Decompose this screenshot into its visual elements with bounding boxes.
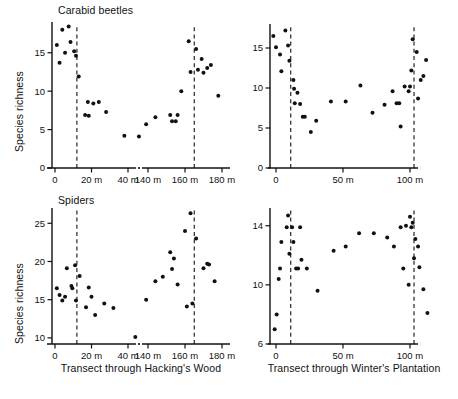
data-point — [122, 134, 126, 138]
data-point — [292, 87, 296, 91]
y-tick-label: 10 — [34, 86, 45, 97]
data-point — [77, 75, 81, 79]
data-point — [60, 28, 64, 32]
data-point — [287, 252, 291, 256]
data-point — [202, 266, 206, 270]
data-point — [274, 45, 278, 49]
data-point — [417, 265, 421, 269]
y-tick-label: 10 — [34, 332, 45, 343]
data-point — [216, 94, 220, 98]
data-point — [74, 298, 78, 302]
data-point — [209, 63, 213, 67]
y-tick-label: 25 — [34, 218, 45, 229]
data-point — [392, 244, 396, 248]
data-point — [309, 130, 313, 134]
data-point — [404, 224, 408, 228]
data-point — [298, 225, 302, 229]
x-tick-label: 0 — [273, 350, 278, 361]
data-point — [153, 279, 157, 283]
data-point — [329, 100, 333, 104]
data-point — [183, 229, 187, 233]
panel-carabid-winters-plantation: 051015050 m100 m — [240, 0, 458, 185]
data-point — [144, 298, 148, 302]
data-point — [279, 69, 283, 73]
x-tick-label: 50 m — [332, 350, 353, 361]
data-point — [278, 267, 282, 271]
data-point — [399, 124, 403, 128]
x-tick-label: 140 m — [135, 350, 161, 361]
data-point — [133, 335, 137, 339]
panel-carabid-hackings-wood: Carabid beetles Species richness 0510150… — [0, 0, 238, 185]
y-tick-label: 15 — [34, 294, 45, 305]
data-point — [168, 113, 172, 117]
data-point — [273, 327, 277, 331]
plot-area-spiders-winters: 61014050 m100 m — [240, 192, 458, 370]
data-point — [170, 119, 174, 123]
x-tick-label: 100 m — [397, 174, 423, 185]
data-point — [194, 237, 198, 241]
data-point — [419, 78, 423, 82]
data-point — [286, 44, 290, 48]
data-point — [316, 289, 320, 293]
data-point — [357, 231, 361, 235]
x-tick-label: 100 m — [397, 350, 423, 361]
x-tick-label: 140 m — [135, 174, 161, 185]
data-point — [411, 37, 415, 41]
panel-spiders-winters-plantation: 61014050 m100 m Transect through Winter'… — [240, 192, 458, 370]
data-point — [305, 267, 309, 271]
data-point — [102, 302, 106, 306]
data-point — [55, 286, 59, 290]
data-point — [55, 43, 59, 47]
data-point — [299, 258, 303, 262]
data-point — [83, 113, 87, 117]
data-point — [415, 50, 419, 54]
data-point — [344, 244, 348, 248]
y-tick-label: 6 — [258, 338, 263, 349]
data-point — [358, 84, 362, 88]
data-point — [303, 115, 307, 119]
data-point — [279, 240, 283, 244]
x-tick-label: 0 — [52, 174, 57, 185]
data-point — [91, 101, 95, 105]
data-point — [174, 119, 178, 123]
data-point — [287, 59, 291, 63]
x-tick-label: 160 m — [172, 174, 198, 185]
data-point — [200, 57, 204, 61]
data-point — [189, 211, 193, 215]
data-point — [207, 263, 211, 267]
x-tick-label: 50 m — [332, 174, 353, 185]
data-point — [416, 244, 420, 248]
data-point — [344, 100, 348, 104]
data-point — [78, 274, 82, 278]
data-point — [271, 34, 275, 38]
data-point — [408, 84, 412, 88]
data-point — [58, 293, 62, 297]
data-point — [172, 256, 176, 260]
data-point — [411, 221, 415, 225]
data-point — [332, 249, 336, 253]
data-point — [63, 295, 67, 299]
y-tick-label: 5 — [40, 124, 45, 135]
data-point — [84, 305, 88, 309]
data-point — [60, 298, 64, 302]
data-point — [87, 285, 91, 289]
data-point — [397, 101, 401, 105]
data-point — [179, 89, 183, 93]
x-axis-caption-winters-plantation: Transect through Winter's Plantation — [250, 362, 458, 374]
y-tick-label: 10 — [252, 82, 263, 93]
x-tick-label: 160 m — [172, 350, 198, 361]
data-point — [67, 25, 71, 29]
data-point — [407, 283, 411, 287]
data-point — [286, 213, 290, 217]
data-point — [137, 134, 141, 138]
data-point — [296, 267, 300, 271]
y-tick-label: 20 — [34, 256, 45, 267]
data-point — [403, 84, 407, 88]
x-tick-label: 20 m — [81, 350, 102, 361]
y-tick-label: 15 — [34, 47, 45, 58]
data-point — [409, 225, 413, 229]
x-tick-label: 0 — [273, 174, 278, 185]
data-point — [283, 28, 287, 32]
data-point — [421, 74, 425, 78]
data-point — [65, 266, 69, 270]
